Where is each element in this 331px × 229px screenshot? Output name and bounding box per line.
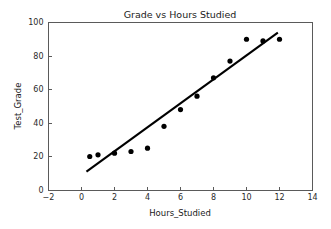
data-point [211, 75, 216, 80]
y-tick-label: 20 [33, 152, 43, 161]
data-point [145, 146, 150, 151]
x-tick-label: 12 [274, 193, 284, 202]
data-point [112, 151, 117, 156]
x-tick-label: 10 [241, 193, 251, 202]
y-tick-label: 60 [33, 85, 43, 94]
x-tick-label: 14 [307, 193, 317, 202]
x-tick-label: 4 [145, 193, 150, 202]
grade-vs-hours-scatter-plot: Grade vs Hours Studied 020406080100 −202… [0, 0, 331, 229]
y-tick-label: 100 [28, 18, 43, 27]
data-point [95, 152, 100, 157]
data-point [128, 149, 133, 154]
chart-figure: Grade vs Hours Studied 020406080100 −202… [0, 0, 331, 229]
chart-title: Grade vs Hours Studied [124, 9, 237, 20]
x-tick-label: 8 [211, 193, 216, 202]
y-tick-label: 40 [33, 119, 43, 128]
x-tick-label: 6 [178, 193, 183, 202]
data-point [87, 154, 92, 159]
x-axis-title: Hours_Studied [149, 208, 211, 218]
y-axis-title: Test_Grade [13, 83, 23, 131]
data-point [227, 58, 232, 63]
x-tick-label: 2 [112, 193, 117, 202]
data-point [277, 37, 282, 42]
data-point [178, 107, 183, 112]
y-tick-label: 80 [33, 52, 43, 61]
data-point [260, 38, 265, 43]
x-tick-label: 0 [79, 193, 84, 202]
data-point [194, 94, 199, 99]
data-point [161, 124, 166, 129]
data-point [244, 37, 249, 42]
x-tick-label: −2 [43, 193, 55, 202]
